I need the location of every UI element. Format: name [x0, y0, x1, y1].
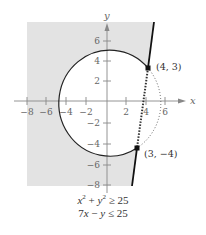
- operator: +: [86, 194, 98, 206]
- operator: −: [89, 207, 101, 219]
- x-axis-label: x: [190, 95, 196, 106]
- x-axis-arrow-icon: [178, 99, 186, 104]
- y-tick-label: 4: [94, 56, 100, 66]
- relation: ≤ 25: [105, 207, 128, 219]
- inequality-1: x2 + y2 ≥ 25: [0, 193, 206, 206]
- y-tick-label: 2: [94, 76, 100, 86]
- x-tick-label: −2: [79, 107, 92, 117]
- inequality-2: 7x − y ≤ 25: [0, 207, 206, 219]
- x-tick-label: 2: [123, 107, 129, 117]
- x-tick-label: 4: [143, 107, 149, 117]
- x-tick-label: −4: [59, 107, 73, 117]
- point-label: (4, 3): [156, 61, 182, 72]
- y-tick-label: 6: [94, 36, 100, 46]
- y-tick-label: −4: [87, 139, 101, 149]
- x-tick-label: −6: [39, 107, 53, 117]
- point-marker: [135, 146, 140, 151]
- relation: ≥ 25: [106, 194, 129, 206]
- y-axis-label: y: [103, 10, 110, 21]
- y-tick-label: −6: [87, 160, 101, 170]
- y-tick-label: −2: [87, 118, 100, 128]
- x-tick-label: 6: [162, 107, 168, 117]
- x-tick-label: −8: [20, 107, 34, 117]
- point-label: (3, −4): [144, 148, 178, 159]
- point-marker: [146, 66, 151, 71]
- y-tick-label: −8: [87, 180, 101, 190]
